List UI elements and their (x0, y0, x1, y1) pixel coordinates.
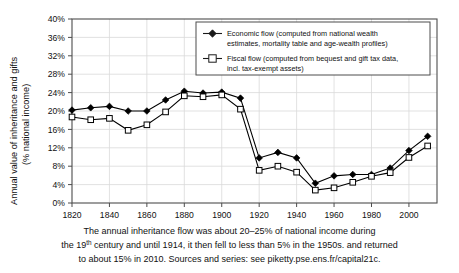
data-point-marker (275, 163, 281, 169)
data-point-marker (369, 174, 375, 180)
data-point-marker (425, 143, 431, 149)
data-point-marker (144, 122, 150, 128)
x-tick-label: 1980 (362, 210, 381, 220)
y-tick-label: 4% (53, 180, 66, 190)
data-point-marker (350, 180, 356, 186)
y-tick-label: 12% (48, 143, 66, 153)
x-tick-label: 1940 (287, 210, 306, 220)
chart-caption: The annual inheritance flow was about 20… (61, 226, 398, 264)
data-point-marker (88, 117, 94, 123)
data-point-marker (294, 169, 300, 175)
y-tick-label: 28% (48, 69, 66, 79)
caption-line-2: the 19th century and until 1914, it then… (61, 239, 398, 250)
data-point-marker (313, 187, 319, 193)
y-tick-label: 32% (48, 51, 66, 61)
caption-line-2-b: century and until 1914, it then fell to … (92, 240, 398, 250)
chart-legend: Economic flow (computed from national we… (196, 22, 430, 75)
legend-label-fiscal-line2: incl. tax-exempt assets) (227, 64, 304, 73)
caption-line-3: to about 15% in 2010. Sources and series… (78, 254, 380, 264)
data-point-marker (219, 92, 225, 98)
x-tick-label: 1920 (250, 210, 269, 220)
data-point-marker (69, 114, 75, 120)
y-tick-label: 36% (48, 33, 66, 43)
y-tick-label: 40% (48, 14, 66, 24)
chart-canvas: Annual value of inheritance and gifts (%… (0, 0, 459, 273)
x-tick-label: 1860 (137, 210, 156, 220)
open-square-marker-icon (209, 55, 216, 62)
y-axis-title-line1: Annual value of inheritance and gifts (9, 56, 19, 205)
data-point-marker (331, 185, 337, 191)
x-tick-label: 1900 (212, 210, 231, 220)
x-tick-label: 1820 (62, 210, 81, 220)
data-point-marker (387, 170, 393, 176)
data-point-marker (163, 109, 169, 115)
x-tick-label: 1960 (324, 210, 343, 220)
legend-entry-economic-flow[interactable]: Economic flow (computed from national we… (203, 29, 388, 48)
y-tick-label: 20% (48, 106, 66, 116)
data-point-marker (406, 155, 412, 161)
y-tick-label: 16% (48, 125, 66, 135)
y-tick-label: 24% (48, 88, 66, 98)
y-axis-title-line2: (% national income) (21, 84, 31, 165)
x-tick-label: 2000 (399, 210, 418, 220)
y-tick-label: 8% (53, 161, 66, 171)
data-point-marker (200, 94, 206, 100)
legend-label-fiscal-line1: Fiscal flow (computed from bequest and g… (227, 54, 398, 63)
data-point-marker (256, 168, 262, 174)
caption-line-2-a: the 19 (61, 240, 86, 250)
inheritance-flow-chart-figure: Annual value of inheritance and gifts (%… (0, 0, 459, 273)
legend-label-economic-line2: estimates, mortality table and age-wealt… (227, 39, 388, 48)
data-point-marker (125, 128, 131, 134)
y-tick-label: 0% (53, 198, 66, 208)
data-point-marker (107, 116, 113, 122)
data-point-marker (182, 93, 188, 99)
caption-line-1: The annual inheritance flow was about 20… (83, 226, 375, 236)
x-tick-label: 1840 (100, 210, 119, 220)
data-point-marker (238, 106, 244, 112)
x-tick-label: 1880 (175, 210, 194, 220)
legend-label-economic-line1: Economic flow (computed from national we… (227, 29, 378, 38)
